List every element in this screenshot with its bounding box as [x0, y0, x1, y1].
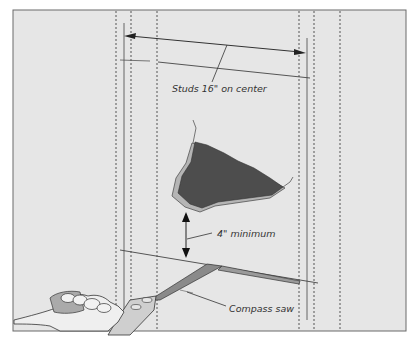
label-saw: Compass saw [229, 303, 294, 314]
label-studs: Studs 16" on center [172, 83, 268, 94]
drywall-repair-diagram: Studs 16" on center 4" minimum Compass s… [0, 0, 413, 341]
label-minimum: 4" minimum [217, 228, 276, 239]
